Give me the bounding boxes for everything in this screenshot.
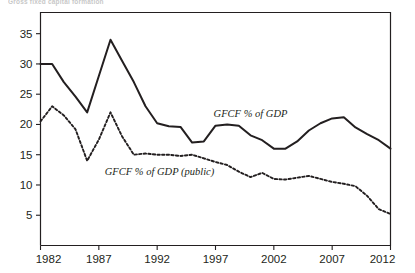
y-tick-label: 5 [26, 209, 32, 221]
chart-figure: Gross fixed capital formation 5101520253… [0, 0, 415, 273]
x-axis-ticks: 1982198719921997200220072012 [36, 246, 396, 265]
series-line-2 [41, 106, 391, 214]
y-axis-ticks: 5101520253035 [20, 28, 41, 222]
chart-axes [41, 13, 391, 246]
x-tick-label: 1997 [203, 253, 229, 265]
y-tick-label: 15 [20, 149, 33, 161]
series-label-1: GFCF % of GDP [214, 108, 288, 119]
y-tick-label: 10 [20, 179, 33, 191]
x-tick-label: 1992 [144, 253, 170, 265]
series-label-2: GFCF % of GDP (public) [105, 166, 215, 178]
x-tick-label: 2007 [319, 253, 345, 265]
y-tick-label: 25 [20, 88, 33, 100]
x-tick-label: 1982 [36, 253, 62, 265]
line-chart-plot: 5101520253035 19821987199219972002200720… [0, 0, 415, 273]
x-tick-label: 2002 [261, 253, 287, 265]
y-tick-label: 20 [20, 118, 33, 130]
x-tick-label: 2012 [370, 253, 396, 265]
y-tick-label: 35 [20, 28, 33, 40]
axis-frame [41, 13, 391, 246]
series-line-1 [41, 40, 391, 149]
y-tick-label: 30 [20, 58, 33, 70]
x-tick-label: 1987 [86, 253, 112, 265]
chart-series-group [41, 40, 391, 214]
